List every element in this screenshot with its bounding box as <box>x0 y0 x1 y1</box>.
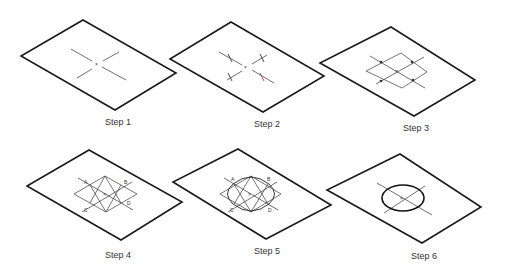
step-6-label: Step 6 <box>411 251 437 261</box>
step-3-label: Step 3 <box>403 123 429 133</box>
point-c: C <box>84 207 88 213</box>
step-2-label: Step 2 <box>254 119 280 129</box>
step-4-figure: A B C D × <box>27 150 182 240</box>
isometric-plane <box>21 20 176 110</box>
step-1-label: Step 1 <box>105 117 131 127</box>
point-d: D <box>268 207 272 213</box>
center-mark: × <box>95 61 98 67</box>
point-c: C <box>230 207 234 213</box>
step-2-figure: × <box>170 22 324 112</box>
step-4-label: Step 4 <box>105 250 131 260</box>
step-6-figure: × <box>327 154 481 243</box>
step-3-figure: × <box>320 27 475 116</box>
center-mark: × <box>103 191 106 197</box>
step-5-label: Step 5 <box>254 246 280 256</box>
center-mark: × <box>395 68 398 74</box>
step-1-figure: × <box>21 20 176 110</box>
center-mark: × <box>244 64 247 70</box>
isometric-circle-diagram: × Step 1 × Step 2 × Step 3 <box>0 0 506 271</box>
isometric-plane <box>170 22 324 112</box>
step-5-figure: A B C D × <box>173 149 331 239</box>
center-mark: × <box>248 191 251 197</box>
point-d: D <box>127 200 131 206</box>
isometric-plane <box>173 149 331 239</box>
center-mark: × <box>400 195 403 201</box>
